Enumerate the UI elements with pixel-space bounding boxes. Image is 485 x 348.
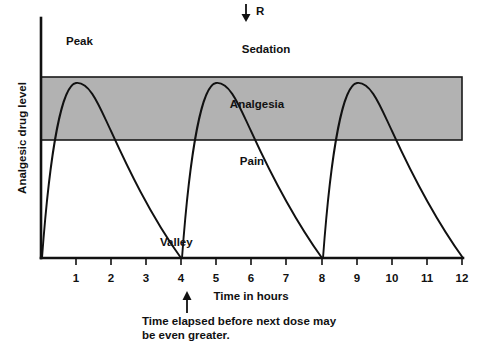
zone-label-pain: Pain <box>240 155 264 167</box>
annotation-peak: Peak <box>66 35 93 47</box>
repeat-dose-label: R <box>256 5 265 17</box>
analgesic-drug-level-chart: 1 2 3 4 5 6 7 8 9 10 11 12 Analgesic dru… <box>0 0 485 348</box>
x-tick-label-7: 7 <box>283 272 289 284</box>
x-tick-label-12: 12 <box>456 272 469 284</box>
zone-label-sedation: Sedation <box>242 43 291 55</box>
x-tick-label-8: 8 <box>319 272 326 284</box>
repeat-dose-marker: R <box>242 4 266 22</box>
x-tick-label-2: 2 <box>108 272 114 284</box>
valley-dose-marker <box>183 291 192 313</box>
zone-label-analgesia: Analgesia <box>230 98 285 110</box>
x-tick-label-9: 9 <box>354 272 360 284</box>
x-tick-label-11: 11 <box>421 272 434 284</box>
x-tick-label-3: 3 <box>143 272 149 284</box>
x-tick-label-10: 10 <box>386 272 399 284</box>
up-arrow-icon-head <box>183 291 192 300</box>
annotation-valley: Valley <box>160 236 193 248</box>
dose-interval-note-line2: be even greater. <box>142 329 230 341</box>
x-tick-label-5: 5 <box>213 272 220 284</box>
down-arrow-icon-head <box>242 14 251 22</box>
x-axis-title: Time in hours <box>213 290 288 302</box>
dose-interval-note-line1: Time elapsed before next dose may <box>142 315 337 327</box>
x-tick-label-6: 6 <box>248 272 254 284</box>
y-axis-title: Analgesic drug level <box>16 82 28 194</box>
x-tick-label-1: 1 <box>73 272 80 284</box>
x-tick-label-4: 4 <box>178 272 185 284</box>
